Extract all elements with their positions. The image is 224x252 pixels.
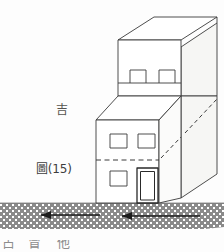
lower-window-upper-right (138, 134, 155, 148)
upper-window-right (159, 70, 175, 83)
entrance-door-inner-panel (141, 172, 155, 201)
figure-caption: 圖(15) (36, 163, 72, 175)
lower-block-side-face (181, 96, 217, 198)
building-figure-svg (0, 0, 224, 252)
annotation-character: 吉 (56, 104, 68, 116)
upper-block-front-face (118, 40, 181, 96)
upper-window-left (130, 70, 146, 83)
bottom-glyph-0: 占 (2, 240, 15, 251)
lower-window-bottom-left (110, 171, 127, 186)
bottom-glyph-2: 他 (57, 240, 70, 251)
building-drawing (96, 17, 217, 203)
bottom-glyph-1: 冒 (28, 240, 41, 251)
bottom-cropped-text-row: 占 冒 他 (0, 240, 224, 252)
figure-page: 吉 圖(15) 占 冒 他 (0, 0, 224, 252)
lower-window-upper-left (110, 134, 127, 148)
